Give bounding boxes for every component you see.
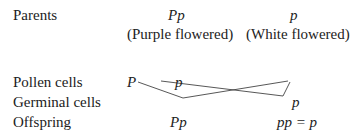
pollen-cell-recessive: p [175, 75, 183, 90]
parent-right-phenotype: (White flowered) [246, 27, 350, 42]
offspring-right-genotype: pp = p [277, 115, 317, 130]
row-label-germinal: Germinal cells [13, 95, 101, 110]
pollen-cell-dominant: P [127, 75, 136, 90]
parent-right-genotype: p [290, 8, 298, 23]
row-label-pollen: Pollen cells [13, 75, 83, 90]
offspring-left-genotype: Pp [170, 115, 187, 130]
row-label-parents: Parents [13, 8, 57, 23]
row-label-offspring: Offspring [13, 115, 71, 130]
parent-left-genotype: Pp [168, 8, 185, 23]
germinal-cell: p [292, 95, 300, 110]
parent-left-phenotype: (Purple flowered) [127, 27, 233, 42]
